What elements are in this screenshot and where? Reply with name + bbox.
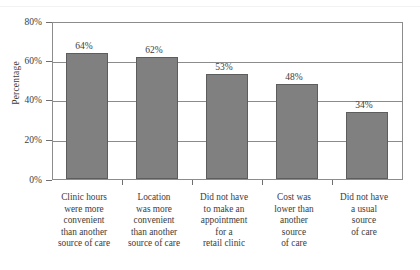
category-label-3-line-2: another: [259, 215, 329, 227]
x-tick-mark-4: [332, 180, 333, 185]
y-tick-mark-60: [46, 61, 52, 62]
category-label-4-line-0: Did not have: [329, 192, 399, 204]
y-tick-mark-0: [46, 180, 52, 181]
y-tick-label-0: 0%: [12, 176, 42, 186]
category-label-2-line-1: to make an: [189, 204, 259, 216]
category-label-1: Location was more convenient than anothe…: [119, 192, 189, 250]
category-label-4-line-2: source: [329, 215, 399, 227]
x-tick-mark-3: [262, 180, 263, 185]
category-label-3-line-3: source: [259, 227, 329, 239]
category-label-0-line-3: than another: [49, 227, 119, 239]
category-label-0: Clinic hours were more convenient than a…: [49, 192, 119, 250]
category-label-4-line-1: a usual: [329, 204, 399, 216]
bar-0: [66, 53, 108, 179]
category-label-3-line-4: of care: [259, 238, 329, 250]
data-label-2: 53%: [196, 63, 252, 73]
category-label-3-line-1: lower than: [259, 204, 329, 216]
category-label-2: Did not have to make an appointment for …: [189, 192, 259, 250]
data-label-3: 48%: [266, 73, 322, 83]
x-tick-mark-1: [122, 180, 123, 185]
category-label-2-line-0: Did not have: [189, 192, 259, 204]
data-label-0: 64%: [56, 42, 112, 52]
category-label-0-line-1: were more: [49, 204, 119, 216]
category-label-2-line-2: appointment: [189, 215, 259, 227]
y-tick-label-40: 40%: [12, 96, 42, 106]
y-tick-label-20: 20%: [12, 136, 42, 146]
bar-chart: Percentage 80% 60% 40% 20% 0% 64% 62% 53…: [0, 0, 420, 270]
y-tick-mark-40: [46, 100, 52, 101]
category-label-4: Did not have a usual source of care: [329, 192, 399, 238]
bar-3: [276, 84, 318, 179]
data-label-4: 34%: [336, 101, 392, 111]
x-tick-mark-2: [192, 180, 193, 185]
category-label-1-line-0: Location: [119, 192, 189, 204]
bar-2: [206, 74, 248, 179]
bar-1: [136, 57, 178, 179]
y-tick-mark-80: [46, 22, 52, 23]
category-label-0-line-0: Clinic hours: [49, 192, 119, 204]
category-label-0-line-4: source of care: [49, 238, 119, 250]
y-tick-label-80: 80%: [12, 18, 42, 28]
y-tick-mark-20: [46, 140, 52, 141]
category-label-1-line-4: source of care: [119, 238, 189, 250]
category-label-1-line-2: convenient: [119, 215, 189, 227]
category-label-2-line-3: for a: [189, 227, 259, 239]
data-label-1: 62%: [126, 46, 182, 56]
category-label-0-line-2: convenient: [49, 215, 119, 227]
category-label-1-line-3: than another: [119, 227, 189, 239]
category-label-2-line-4: retail clinic: [189, 238, 259, 250]
scan-artifact-line: [0, 6, 420, 7]
category-label-3: Cost was lower than another source of ca…: [259, 192, 329, 250]
category-label-1-line-1: was more: [119, 204, 189, 216]
y-tick-label-60: 60%: [12, 57, 42, 67]
category-label-3-line-0: Cost was: [259, 192, 329, 204]
bar-4: [346, 112, 388, 179]
category-label-4-line-3: of care: [329, 227, 399, 239]
